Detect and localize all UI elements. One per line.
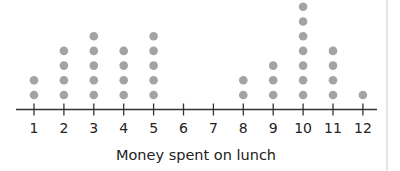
x-tick-label: 12 (354, 120, 372, 136)
x-tick-label: 2 (59, 120, 68, 136)
dot-column (269, 61, 278, 99)
x-tick-label: 10 (294, 120, 312, 136)
data-dot (329, 91, 338, 100)
data-dot (269, 76, 278, 85)
x-axis-tick-labels: 123456789101112 (30, 120, 372, 136)
data-dot (30, 91, 39, 100)
data-dot (299, 32, 308, 41)
data-dot (329, 61, 338, 70)
data-dot (299, 47, 308, 56)
data-dot (329, 47, 338, 56)
data-dot (299, 3, 308, 12)
data-dot (299, 76, 308, 85)
data-dot (90, 91, 99, 100)
data-dot (299, 17, 308, 26)
dot-column (299, 3, 308, 100)
dot-plot: 123456789101112 Money spent on lunch (0, 0, 400, 171)
data-dot (269, 91, 278, 100)
data-dot (60, 47, 69, 56)
x-tick-label: 8 (239, 120, 248, 136)
dot-column (329, 47, 338, 100)
x-tick-label: 5 (149, 120, 158, 136)
data-dot (119, 61, 128, 70)
data-dot (60, 91, 69, 100)
data-dot (149, 76, 158, 85)
x-tick-label: 3 (89, 120, 98, 136)
dot-column (119, 47, 128, 100)
data-dot (60, 61, 69, 70)
dot-column (149, 32, 158, 99)
data-dot (119, 76, 128, 85)
data-dot (149, 47, 158, 56)
data-dot (119, 91, 128, 100)
data-dot (30, 76, 39, 85)
dot-column (239, 76, 248, 99)
data-dot (149, 61, 158, 70)
dot-columns (30, 3, 368, 100)
data-dot (90, 76, 99, 85)
data-dot (329, 76, 338, 85)
data-dot (299, 61, 308, 70)
data-dot (90, 47, 99, 56)
x-tick-label: 9 (269, 120, 278, 136)
data-dot (60, 76, 69, 85)
data-dot (239, 76, 248, 85)
x-tick-label: 6 (179, 120, 188, 136)
dot-column (359, 91, 368, 100)
x-tick-label: 7 (209, 120, 218, 136)
x-tick-label: 4 (119, 120, 128, 136)
dot-column (60, 47, 69, 100)
data-dot (149, 32, 158, 41)
data-dot (90, 61, 99, 70)
data-dot (299, 91, 308, 100)
data-dot (359, 91, 368, 100)
data-dot (149, 91, 158, 100)
x-tick-label: 1 (30, 120, 39, 136)
data-dot (239, 91, 248, 100)
dot-column (30, 76, 39, 99)
x-axis-label: Money spent on lunch (116, 147, 276, 163)
data-dot (119, 47, 128, 56)
x-tick-label: 11 (324, 120, 342, 136)
data-dot (269, 61, 278, 70)
dot-column (90, 32, 99, 99)
data-dot (90, 32, 99, 41)
